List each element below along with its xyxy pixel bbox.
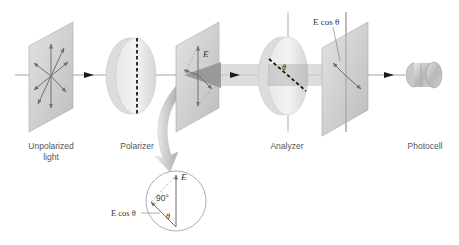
- unpolarized-light-label: Unpolarized light: [22, 141, 80, 163]
- analyzer-theta-label: θ: [282, 63, 286, 72]
- beam-direction-arrow-3: [384, 72, 394, 78]
- analyzer-beam: [308, 64, 322, 86]
- photocell-label: Photocell: [400, 141, 450, 152]
- unpolarized-label-line1: Unpolarized: [22, 141, 80, 152]
- inset-90-label: 90°: [156, 193, 169, 203]
- polarizer-disc: [106, 38, 156, 114]
- polarizer-label: Polarizer: [112, 141, 162, 152]
- photocell-icon: [406, 62, 442, 88]
- analyzer-label: Analyzer: [262, 141, 312, 152]
- inset-component-label: E cos θ: [111, 208, 136, 218]
- inset-E-label: E: [180, 172, 187, 182]
- analyzer-output-label: E cos θ: [313, 17, 339, 27]
- unpolarized-label-line2: light: [22, 152, 80, 163]
- vector-decomposition-inset: E 90° θ E cos θ: [111, 171, 206, 231]
- field-E-label: E: [202, 49, 209, 59]
- polarization-diagram: E θ E cos θ E: [0, 0, 459, 245]
- inset-theta-label: θ: [166, 212, 170, 221]
- analyzer-disc: θ: [258, 37, 308, 115]
- beam-direction-arrow-1: [84, 72, 94, 78]
- unpolarized-light-panel: [29, 22, 73, 132]
